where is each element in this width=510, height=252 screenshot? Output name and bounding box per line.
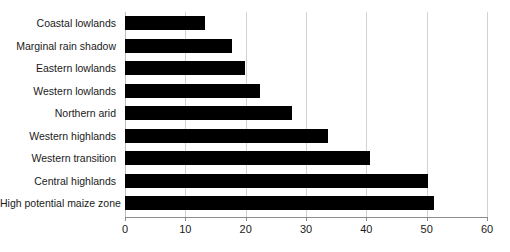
bar — [125, 106, 292, 120]
category-label: High potential maize zone — [0, 192, 120, 215]
category-axis-labels: Coastal lowlandsMarginal rain shadowEast… — [0, 12, 120, 217]
x-tick-label: 60 — [481, 223, 493, 235]
bar-row — [125, 192, 487, 215]
x-tick-label: 40 — [360, 223, 372, 235]
bar — [125, 151, 370, 165]
x-tick-mark — [427, 217, 428, 221]
x-axis-ticks: 0102030405060 — [125, 217, 487, 247]
category-label: Marginal rain shadow — [0, 35, 120, 58]
x-tick-mark — [487, 217, 488, 221]
bar-series — [125, 12, 487, 217]
bar-row — [125, 12, 487, 35]
bar — [125, 39, 232, 53]
bar-row — [125, 57, 487, 80]
x-tick-label: 30 — [300, 223, 312, 235]
x-tick-mark — [185, 217, 186, 221]
category-label: Northern arid — [0, 102, 120, 125]
category-label: Western highlands — [0, 125, 120, 148]
gridline-60 — [487, 12, 488, 217]
category-label: Eastern lowlands — [0, 57, 120, 80]
category-label: Western lowlands — [0, 80, 120, 103]
bar-row — [125, 102, 487, 125]
bar — [125, 16, 205, 30]
bar — [125, 61, 245, 75]
x-tick-label: 50 — [421, 223, 433, 235]
bar-row — [125, 35, 487, 58]
x-tick-mark — [246, 217, 247, 221]
bar-chart: Coastal lowlandsMarginal rain shadowEast… — [0, 0, 510, 252]
x-tick-label: 20 — [240, 223, 252, 235]
x-tick-label: 10 — [179, 223, 191, 235]
bar-row — [125, 147, 487, 170]
bar-row — [125, 125, 487, 148]
bar — [125, 129, 328, 143]
category-label: Coastal lowlands — [0, 12, 120, 35]
x-tick-label: 0 — [122, 223, 128, 235]
category-label: Central highlands — [0, 170, 120, 193]
category-label: Western transition — [0, 147, 120, 170]
plot-area — [125, 12, 487, 217]
bar — [125, 84, 260, 98]
bar-row — [125, 170, 487, 193]
bar — [125, 174, 428, 188]
x-tick-mark — [366, 217, 367, 221]
bar-row — [125, 80, 487, 103]
x-tick-mark — [306, 217, 307, 221]
x-tick-mark — [125, 217, 126, 221]
bar — [125, 196, 434, 210]
